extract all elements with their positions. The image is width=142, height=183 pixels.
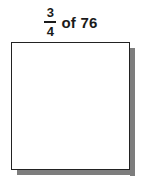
box-shadow-right bbox=[130, 48, 135, 176]
answer-work-box[interactable] bbox=[11, 42, 130, 170]
problem-prompt: 3 4 of 76 bbox=[0, 4, 142, 38]
prompt-of-whole-number: of 76 bbox=[61, 14, 97, 31]
box-shadow-bottom bbox=[17, 170, 135, 175]
fraction-bar-icon bbox=[44, 21, 56, 23]
fraction-three-fourths: 3 4 bbox=[44, 6, 56, 37]
fraction-denominator: 4 bbox=[47, 24, 54, 38]
answer-box-container bbox=[11, 42, 130, 170]
fraction-numerator: 3 bbox=[47, 6, 54, 20]
worksheet-problem: 3 4 of 76 bbox=[0, 0, 142, 183]
